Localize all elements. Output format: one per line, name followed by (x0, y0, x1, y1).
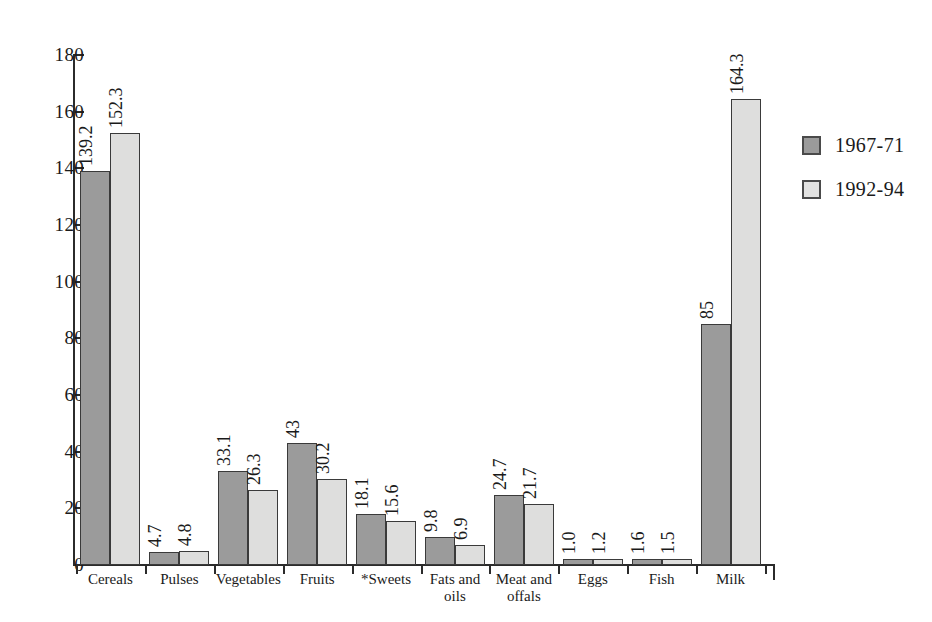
legend-item[interactable]: 1992-94 (802, 178, 904, 200)
bar-value-label: 9.8 (422, 510, 440, 533)
legend-swatch (802, 180, 821, 199)
bar-group: 4330.2 (283, 55, 352, 565)
bar-value-label: 1.2 (590, 532, 608, 555)
bar-value-label: 43 (284, 420, 302, 438)
bar-value-label: 1.5 (659, 532, 677, 555)
legend-label: 1967-71 (835, 135, 904, 155)
bar-group: 85164.3 (696, 55, 765, 565)
bar[interactable]: 26.3 (248, 490, 278, 565)
bar-value-label: 18.1 (353, 477, 371, 509)
bar-value-label: 1.0 (560, 532, 578, 555)
bar-group: 139.2152.3 (76, 55, 145, 565)
y-axis-tick-label: 60 (0, 385, 84, 404)
legend-label: 1992-94 (835, 179, 904, 199)
bar[interactable]: 9.8 (425, 537, 455, 565)
bar-group: 9.86.9 (421, 55, 490, 565)
bar-group-bars: 9.86.9 (421, 55, 490, 565)
bar-value-label: 33.1 (215, 435, 233, 467)
bar-group-bars: 18.115.6 (352, 55, 421, 565)
bar-value-label: 30.2 (314, 443, 332, 475)
bar-group: 33.126.3 (214, 55, 283, 565)
bar[interactable]: 1.5 (662, 559, 692, 565)
bar[interactable]: 152.3 (110, 133, 140, 565)
bar-value-label: 1.6 (629, 532, 647, 555)
bar[interactable]: 1.6 (632, 559, 662, 565)
bar-group-bars: 24.721.7 (489, 55, 558, 565)
legend: 1967-711992-94 (802, 134, 904, 222)
y-axis-tick-label: 160 (0, 102, 84, 121)
bar[interactable]: 6.9 (455, 545, 485, 565)
y-axis-line (73, 55, 75, 566)
bar[interactable]: 30.2 (317, 479, 347, 565)
category-label: Vegetables (214, 571, 283, 588)
category-label: Fish (627, 571, 696, 588)
x-axis-tick (765, 564, 767, 574)
bar[interactable]: 24.7 (494, 495, 524, 565)
bar-chart: 020406080100120140160180 139.2152.34.74.… (0, 0, 932, 622)
category-label: Eggs (558, 571, 627, 588)
bar-group-bars: 85164.3 (696, 55, 765, 565)
bar-group-bars: 4.74.8 (145, 55, 214, 565)
y-axis-tick-label: 120 (0, 215, 84, 234)
bar[interactable]: 85 (701, 324, 731, 565)
bar-value-label: 4.8 (176, 524, 194, 547)
y-axis-tick-label: 140 (0, 158, 84, 177)
category-label: Meat and offals (489, 571, 558, 605)
bar-group-bars: 33.126.3 (214, 55, 283, 565)
bar-value-label: 26.3 (245, 454, 263, 486)
bar[interactable]: 4.7 (149, 552, 179, 565)
y-axis-tick-label: 100 (0, 272, 84, 291)
bar[interactable]: 1.2 (593, 559, 623, 565)
bar-value-label: 21.7 (521, 467, 539, 499)
bar-value-label: 15.6 (383, 484, 401, 516)
bar-value-label: 24.7 (491, 459, 509, 491)
bar[interactable]: 15.6 (386, 521, 416, 565)
bar-group: 24.721.7 (489, 55, 558, 565)
bar-group-bars: 1.01.2 (558, 55, 627, 565)
bar[interactable]: 18.1 (356, 514, 386, 565)
bar-group-bars: 1.61.5 (627, 55, 696, 565)
legend-swatch (802, 136, 821, 155)
bar-value-label: 152.3 (107, 88, 125, 129)
y-axis-tick-label: 180 (0, 45, 84, 64)
bar-group-bars: 4330.2 (283, 55, 352, 565)
bar-value-label: 85 (698, 301, 716, 319)
bar-value-label: 164.3 (728, 54, 746, 95)
y-axis-tick-label: 40 (0, 442, 84, 461)
bar[interactable]: 139.2 (80, 171, 110, 565)
category-label: Fats and oils (421, 571, 490, 605)
category-label: Fruits (283, 571, 352, 588)
y-axis-tick-label: 0 (0, 555, 84, 574)
bar-value-label: 6.9 (452, 518, 470, 541)
category-label: Milk (696, 571, 765, 588)
category-label: Cereals (76, 571, 145, 588)
bar[interactable]: 21.7 (524, 504, 554, 565)
bar-group-bars: 139.2152.3 (76, 55, 145, 565)
y-axis-tick-label: 20 (0, 498, 84, 517)
bar-group: 1.01.2 (558, 55, 627, 565)
legend-item[interactable]: 1967-71 (802, 134, 904, 156)
bar-group: 4.74.8 (145, 55, 214, 565)
y-axis-tick-label: 80 (0, 328, 84, 347)
bar-value-label: 4.7 (146, 524, 164, 547)
bar[interactable]: 4.8 (179, 551, 209, 565)
bar[interactable]: 33.1 (218, 471, 248, 565)
bar[interactable]: 1.0 (563, 559, 593, 565)
bar[interactable]: 164.3 (731, 99, 761, 565)
category-label: *Sweets (352, 571, 421, 588)
category-label: Pulses (145, 571, 214, 588)
bar-group: 18.115.6 (352, 55, 421, 565)
x-axis-end-tick (773, 564, 775, 580)
bar-group: 1.61.5 (627, 55, 696, 565)
bar-value-label: 139.2 (77, 125, 95, 166)
